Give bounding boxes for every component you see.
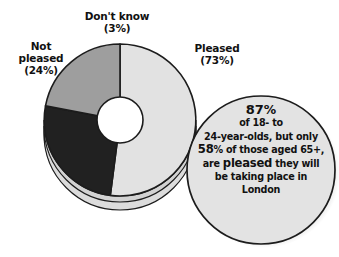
callout-line-6: be taking place in <box>193 170 329 183</box>
pie-label-pleased: Pleased (73%) <box>174 42 260 66</box>
pie-chart-figure: Don't know (3%) Not pleased (24%) Please… <box>0 0 339 257</box>
callout-line-5: are pleased they will <box>193 157 329 170</box>
callout-line-7: London <box>193 183 329 196</box>
callout-line-3: 24-year-olds, but only <box>193 130 329 143</box>
pie-label-not-pleased: Not pleased (24%) <box>2 40 80 76</box>
donut-hole <box>97 97 143 143</box>
pie-label-dont-know: Don't know (3%) <box>62 10 172 34</box>
callout-line-4: 58% of those aged 65+, <box>193 143 329 156</box>
callout-line-1: 87% <box>193 103 329 116</box>
callout-line-2: of 18- to <box>193 116 329 129</box>
callout-text-block: 87% of 18- to 24-year-olds, but only 58%… <box>193 103 329 197</box>
